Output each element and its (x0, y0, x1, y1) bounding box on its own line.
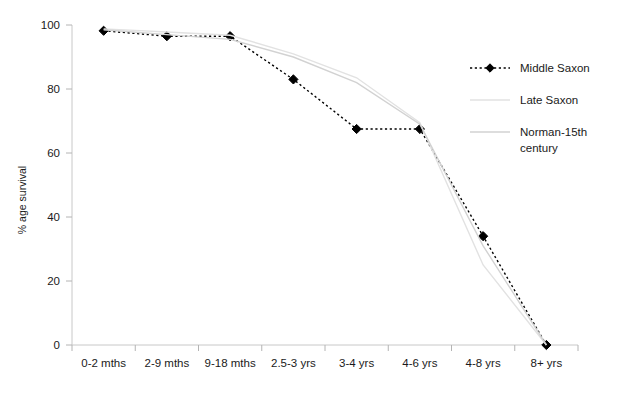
x-category-label: 2.5-3 yrs (271, 357, 316, 369)
legend-item-label: Middle Saxon (520, 62, 590, 74)
y-tick-label: 0 (54, 339, 60, 351)
y-tick-label: 60 (47, 147, 60, 159)
x-category-label: 2-9 mths (145, 357, 190, 369)
series-marker-diamond (99, 26, 108, 35)
y-tick-label: 80 (47, 83, 60, 95)
series-line (104, 31, 547, 345)
x-category-label: 0-2 mths (81, 357, 126, 369)
series-layer (99, 26, 551, 349)
series-marker-diamond (162, 32, 171, 41)
legend-marker-diamond (486, 64, 494, 72)
x-axis-category-labels: 0-2 mths2-9 mths9-18 mths2.5-3 yrs3-4 yr… (81, 357, 562, 369)
chart-canvas: 020406080100 0-2 mths2-9 mths9-18 mths2.… (0, 0, 617, 396)
x-category-label: 4-6 yrs (402, 357, 437, 369)
survival-line-chart: 020406080100 0-2 mths2-9 mths9-18 mths2.… (0, 0, 617, 396)
y-tick-label: 40 (47, 211, 60, 223)
legend-item-label: century (520, 142, 558, 154)
x-category-label: 8+ yrs (531, 357, 563, 369)
y-tick-label: 100 (41, 19, 60, 31)
y-axis-ticks (66, 25, 72, 345)
x-category-label: 9-18 mths (205, 357, 256, 369)
y-axis-tick-labels: 020406080100 (41, 19, 60, 351)
series-line (104, 30, 547, 345)
legend-item-label: Norman-15th (520, 126, 587, 138)
x-category-label: 4-8 yrs (466, 357, 501, 369)
x-category-label: 3-4 yrs (339, 357, 374, 369)
y-axis-title: % age survival (16, 166, 28, 234)
legend-item-label: Late Saxon (520, 94, 578, 106)
y-tick-label: 20 (47, 275, 60, 287)
chart-legend: Middle SaxonLate SaxonNorman-15thcentury (470, 62, 590, 154)
series-line (104, 29, 547, 345)
x-axis-ticks (72, 345, 578, 351)
